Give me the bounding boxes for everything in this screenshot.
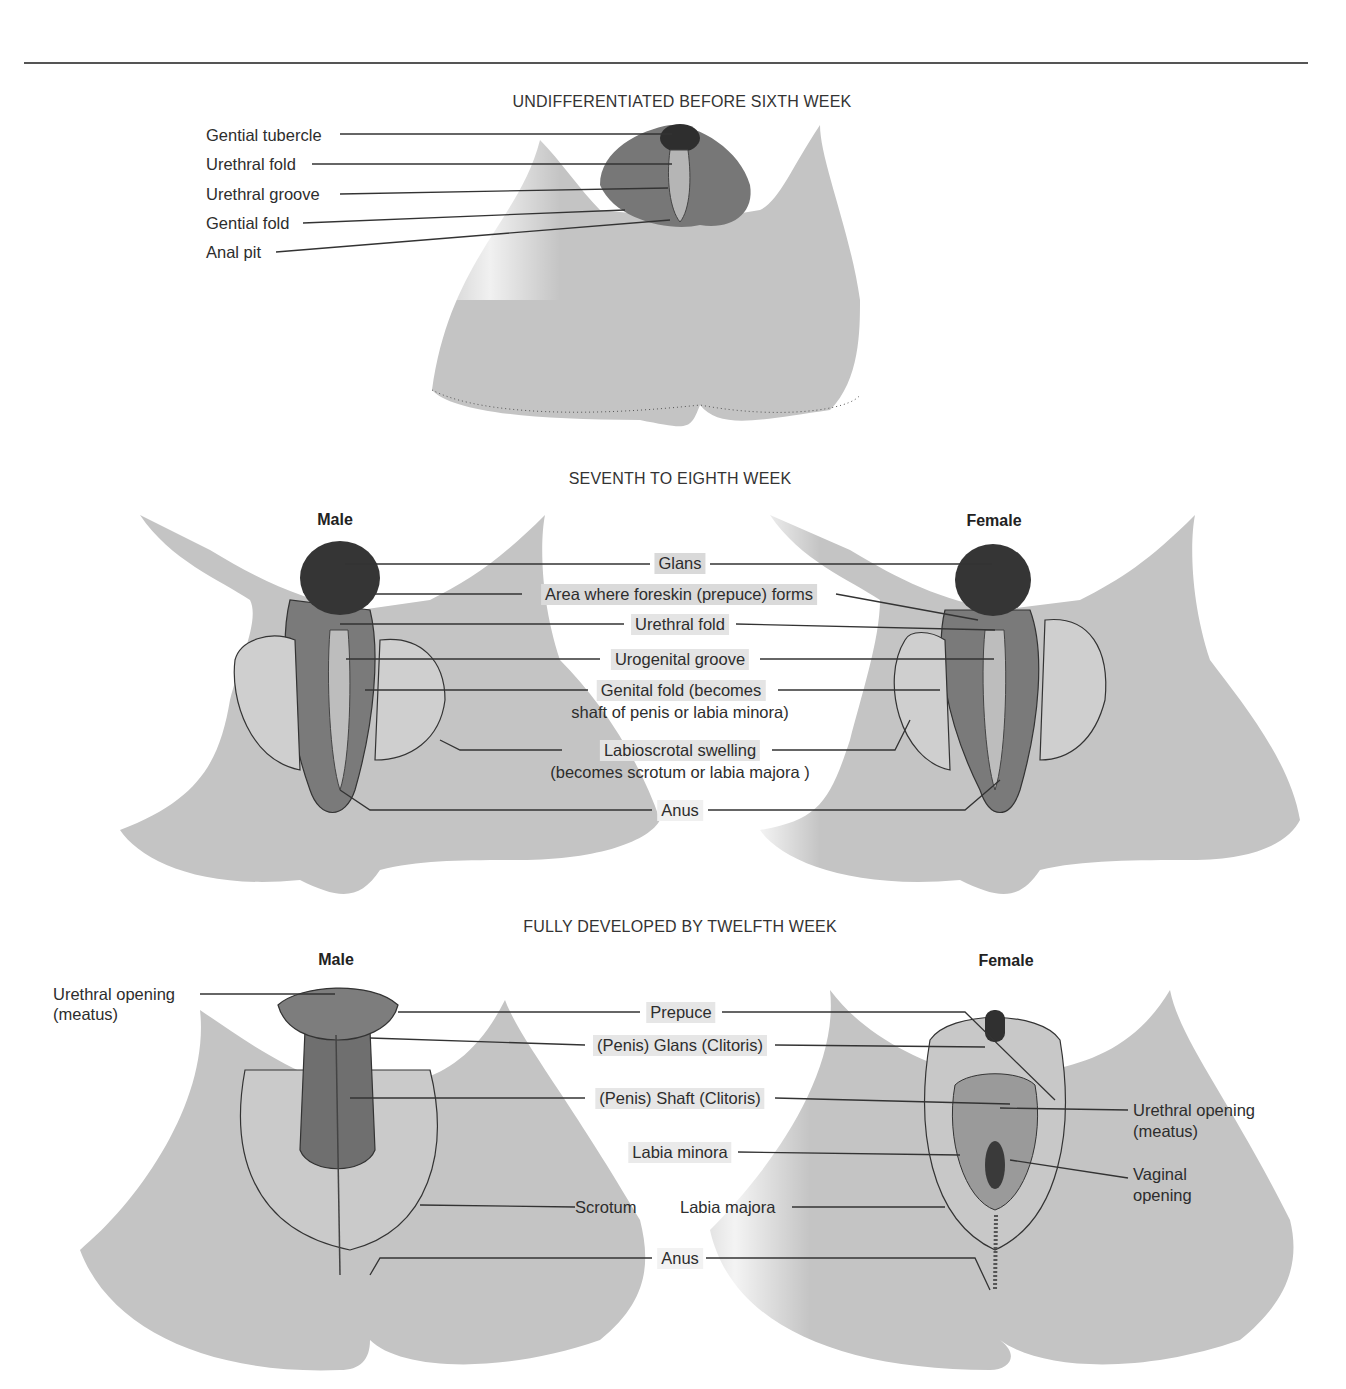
panel2-male-label: Male: [317, 511, 353, 529]
panel2-heading: SEVENTH TO EIGHTH WEEK: [569, 470, 792, 488]
label-genital-fold: Gential fold: [206, 213, 289, 234]
label-urogenital-groove: Urogenital groove: [611, 649, 749, 670]
panel3-heading: FULLY DEVELOPED BY TWELFTH WEEK: [523, 918, 837, 936]
label-genital-tubercle: Gential tubercle: [206, 125, 322, 146]
label-urethral-fold: Urethral fold: [206, 154, 296, 175]
label-anus-3: Anus: [657, 1248, 703, 1269]
panel1-heading: UNDIFFERENTIATED BEFORE SIXTH WEEK: [513, 93, 852, 111]
label-shaft: (Penis) Shaft (Clitoris): [595, 1088, 764, 1109]
label-vaginal-opening-2: opening: [1133, 1185, 1192, 1206]
label-urethral-opening-female-1: Urethral opening: [1133, 1100, 1255, 1121]
label-glans: Glans: [654, 553, 705, 574]
label-labioscrotal-a: Labioscrotal swelling: [600, 740, 760, 761]
label-anal-pit: Anal pit: [206, 242, 261, 263]
undifferentiated-body: [420, 120, 860, 426]
label-labia-majora: Labia majora: [680, 1197, 775, 1218]
panel3-female-body: [660, 965, 1293, 1370]
panel3-female-label: Female: [978, 952, 1033, 970]
panel2-female-label: Female: [966, 512, 1021, 530]
label-labioscrotal-b: (becomes scrotum or labia majora ): [550, 762, 810, 783]
label-urethral-groove: Urethral groove: [206, 184, 320, 205]
label-urethral-fold-2: Urethral fold: [631, 614, 729, 635]
label-glans-3: (Penis) Glans (Clitoris): [593, 1035, 767, 1056]
panel3-male-label: Male: [318, 951, 354, 969]
label-genital-fold-2b: shaft of penis or labia minora): [571, 702, 788, 723]
label-anus-2: Anus: [657, 800, 703, 821]
label-labia-minora: Labia minora: [628, 1142, 731, 1163]
label-genital-fold-2a: Genital fold (becomes: [597, 680, 766, 701]
label-vaginal-opening-1: Vaginal: [1133, 1164, 1187, 1185]
label-urethral-opening-male-2: (meatus): [53, 1004, 118, 1025]
panel2-female-body: [700, 505, 1300, 894]
label-prepuce-area: Area where foreskin (prepuce) forms: [541, 584, 817, 605]
label-urethral-opening-male-1: Urethral opening: [53, 984, 175, 1005]
label-prepuce: Prepuce: [646, 1002, 715, 1023]
label-scrotum: Scrotum: [575, 1197, 636, 1218]
label-urethral-opening-female-2: (meatus): [1133, 1121, 1198, 1142]
panel3-male-body: [80, 988, 645, 1370]
